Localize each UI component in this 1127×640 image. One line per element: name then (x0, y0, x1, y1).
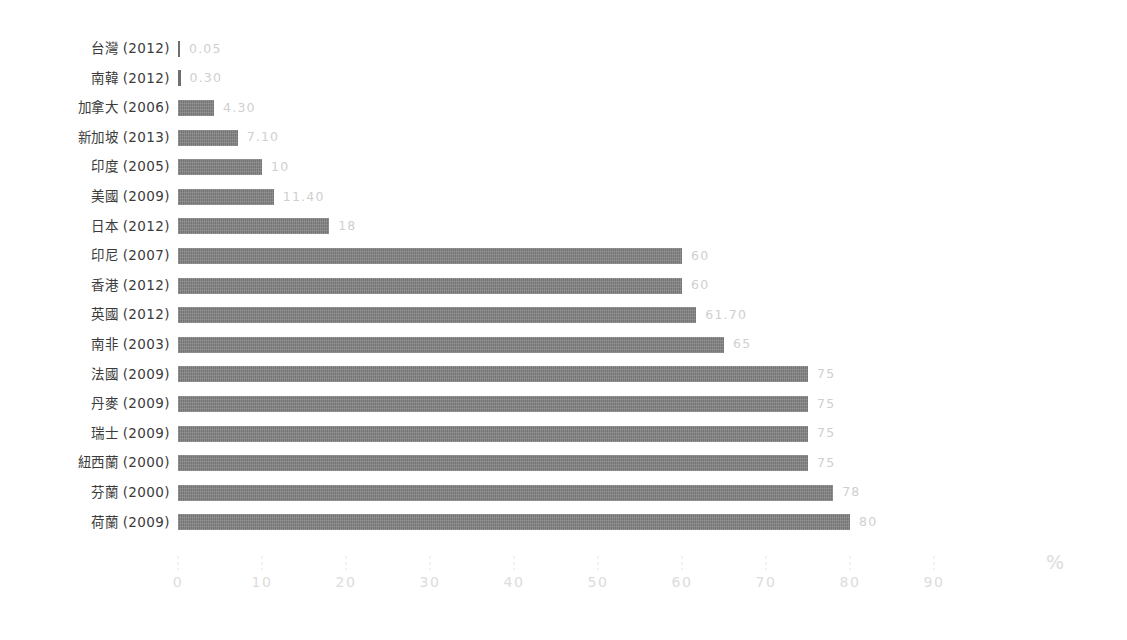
bar (178, 189, 274, 205)
category-label: 日本 (2012) (0, 220, 170, 234)
bar-row: 英國 (2012)61.70 (0, 300, 1127, 330)
bar-area: 75 (178, 366, 1127, 382)
bar (178, 248, 682, 264)
axis-tick-label: 20 (336, 575, 357, 589)
bar-value-label: 60 (691, 279, 709, 292)
bar (178, 514, 850, 530)
bar-value-label: 75 (817, 427, 835, 440)
bar (178, 159, 262, 175)
bar-row: 日本 (2012)18 (0, 212, 1127, 242)
axis-tick-label: 0 (173, 575, 183, 589)
category-label: 瑞士 (2009) (0, 427, 170, 441)
bar-row: 美國 (2009)11.40 (0, 182, 1127, 212)
axis-tick-label: 70 (756, 575, 777, 589)
bar-row: 法國 (2009)75 (0, 360, 1127, 390)
bar-area: 4.30 (178, 100, 1127, 116)
bar-value-label: 80 (859, 516, 877, 529)
axis-tick-mark (430, 556, 431, 570)
bar (178, 337, 724, 353)
axis-tick-mark (178, 556, 179, 570)
x-axis: % 0102030405060708090 (0, 556, 1127, 616)
bar-value-label: 18 (338, 220, 356, 233)
bar-row: 芬蘭 (2000)78 (0, 478, 1127, 508)
bar-value-label: 75 (817, 368, 835, 381)
bar-value-label: 4.30 (223, 102, 256, 115)
bar (178, 396, 808, 412)
bar-row: 南非 (2003)65 (0, 330, 1127, 360)
category-label: 英國 (2012) (0, 308, 170, 322)
bar (178, 218, 329, 234)
category-label: 印尼 (2007) (0, 249, 170, 263)
bar-row: 丹麥 (2009)75 (0, 389, 1127, 419)
bar-row: 新加坡 (2013)7.10 (0, 123, 1127, 153)
bar-area: 75 (178, 396, 1127, 412)
bar-area: 65 (178, 337, 1127, 353)
bar-row: 加拿大 (2006)4.30 (0, 93, 1127, 123)
bar-area: 78 (178, 485, 1127, 501)
bar (178, 426, 808, 442)
bar-row: 紐西蘭 (2000)75 (0, 448, 1127, 478)
bar-area: 0.30 (178, 70, 1127, 86)
bar (178, 455, 808, 471)
bar-area: 11.40 (178, 189, 1127, 205)
bar-row: 印度 (2005)10 (0, 152, 1127, 182)
bar-area: 7.10 (178, 130, 1127, 146)
percent-unit-label: % (1046, 553, 1064, 572)
category-label: 新加坡 (2013) (0, 131, 170, 145)
bar-row: 瑞士 (2009)75 (0, 419, 1127, 449)
bar-row: 印尼 (2007)60 (0, 241, 1127, 271)
bar-value-label: 11.40 (283, 191, 325, 204)
bar (178, 130, 238, 146)
bar-area: 75 (178, 455, 1127, 471)
axis-tick-mark (682, 556, 683, 570)
bar-row: 香港 (2012)60 (0, 271, 1127, 301)
axis-tick-mark (262, 556, 263, 570)
category-label: 印度 (2005) (0, 160, 170, 174)
category-label: 南非 (2003) (0, 338, 170, 352)
axis-tick-mark (850, 556, 851, 570)
bar-area: 60 (178, 248, 1127, 264)
category-label: 荷蘭 (2009) (0, 516, 170, 530)
bar-rows-container: 台灣 (2012)0.05南韓 (2012)0.30加拿大 (2006)4.30… (0, 34, 1127, 537)
bar (178, 485, 833, 501)
axis-tick-mark (346, 556, 347, 570)
axis-tick-mark (514, 556, 515, 570)
axis-tick-mark (934, 556, 935, 570)
bar (178, 366, 808, 382)
horizontal-bar-chart: 台灣 (2012)0.05南韓 (2012)0.30加拿大 (2006)4.30… (0, 0, 1127, 640)
axis-tick-label: 80 (840, 575, 861, 589)
axis-tick-label: 60 (672, 575, 693, 589)
bar-area: 18 (178, 218, 1127, 234)
axis-tick-label: 10 (252, 575, 273, 589)
bar-value-label: 61.70 (705, 309, 747, 322)
bar-area: 80 (178, 514, 1127, 530)
bar (178, 70, 181, 86)
axis-tick-label: 50 (588, 575, 609, 589)
category-label: 紐西蘭 (2000) (0, 456, 170, 470)
bar (178, 41, 180, 57)
bar-value-label: 60 (691, 250, 709, 263)
axis-tick-label: 90 (924, 575, 945, 589)
bar-row: 台灣 (2012)0.05 (0, 34, 1127, 64)
bar-value-label: 7.10 (247, 131, 280, 144)
axis-tick-label: 40 (504, 575, 525, 589)
bar-value-label: 0.05 (189, 43, 222, 56)
bar-value-label: 75 (817, 398, 835, 411)
bar (178, 278, 682, 294)
axis-tick-label: 30 (420, 575, 441, 589)
category-label: 加拿大 (2006) (0, 101, 170, 115)
bar-area: 61.70 (178, 307, 1127, 323)
category-label: 法國 (2009) (0, 368, 170, 382)
category-label: 台灣 (2012) (0, 42, 170, 56)
axis-tick-mark (598, 556, 599, 570)
bar (178, 307, 696, 323)
bar-row: 荷蘭 (2009)80 (0, 508, 1127, 538)
axis-tick-mark (766, 556, 767, 570)
bar-area: 75 (178, 426, 1127, 442)
category-label: 南韓 (2012) (0, 72, 170, 86)
bar-area: 0.05 (178, 41, 1127, 57)
bar-value-label: 78 (842, 486, 860, 499)
bar-row: 南韓 (2012)0.30 (0, 64, 1127, 94)
bar (178, 100, 214, 116)
bar-value-label: 75 (817, 457, 835, 470)
